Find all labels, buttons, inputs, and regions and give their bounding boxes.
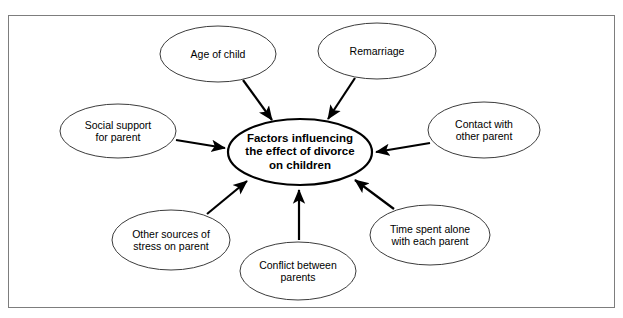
node-ellipse-time-spent-alone-with-each-parent[interactable] xyxy=(370,205,490,265)
arrow-social-support-for-parent xyxy=(176,140,225,148)
center-node-ellipse[interactable] xyxy=(228,119,372,185)
node-ellipse-conflict-between-parents[interactable] xyxy=(240,242,356,300)
arrow-contact-with-other-parent xyxy=(376,143,430,152)
diagram-root: Age of childRemarriageContact with other… xyxy=(0,0,623,318)
node-ellipse-social-support-for-parent[interactable] xyxy=(60,104,176,158)
diagram-canvas xyxy=(0,0,623,318)
ellipse-layer xyxy=(60,23,540,300)
arrow-other-sources-of-stress-on-parent xyxy=(207,181,247,214)
node-ellipse-contact-with-other-parent[interactable] xyxy=(428,102,540,158)
node-ellipse-age-of-child[interactable] xyxy=(160,26,276,82)
node-ellipse-remarriage[interactable] xyxy=(318,23,436,79)
arrow-remarriage xyxy=(328,78,355,119)
node-ellipse-other-sources-of-stress-on-parent[interactable] xyxy=(112,210,230,270)
arrow-time-spent-alone-with-each-parent xyxy=(355,180,394,209)
arrow-age-of-child xyxy=(243,80,272,120)
